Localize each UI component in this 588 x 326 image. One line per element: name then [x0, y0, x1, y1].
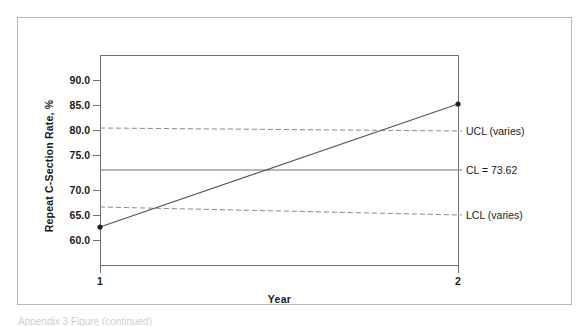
figure-caption-text: Appendix 3 Figure (continued): [18, 317, 268, 326]
figure-caption-cropped: Appendix 3 Figure (continued): [18, 317, 268, 326]
data-point-year-1: [97, 224, 102, 229]
data-point-year-2: [455, 101, 460, 106]
ucl-line: [100, 128, 462, 131]
series-line-repeat-c-section-rate: [100, 104, 458, 227]
chart-plot-lines: [0, 0, 588, 326]
control-chart-figure: 90.0 85.0 80.0 75.0 70.0 65.0 60.0 1 2 Y…: [0, 0, 588, 326]
